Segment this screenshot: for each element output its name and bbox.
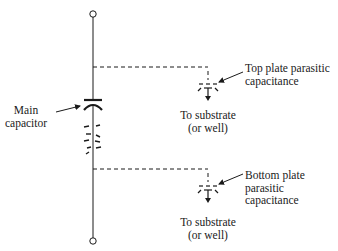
top-parasitic-connection xyxy=(93,67,208,80)
bottom-parasitic-pointer xyxy=(219,174,243,184)
bottom-parasitic-label: Bottom plate parasitic capacitance xyxy=(245,169,305,207)
top-parasitic-capacitor-icon xyxy=(198,84,218,97)
top-substrate-label-line1: To substrate xyxy=(173,109,243,122)
top-substrate-arrow-icon xyxy=(205,96,211,101)
bottom-substrate-label: To substrate (or well) xyxy=(173,216,243,241)
bottom-substrate-label-line1: To substrate xyxy=(173,216,243,229)
bottom-substrate-label-line2: (or well) xyxy=(173,229,243,242)
top-substrate-label-line2: (or well) xyxy=(173,122,243,135)
bottom-substrate-arrow-icon xyxy=(205,198,211,203)
top-parasitic-label: Top plate parasitic capacitance xyxy=(245,62,330,87)
bottom-parasitic-label-line3: capacitance xyxy=(245,194,305,207)
top-substrate-label: To substrate (or well) xyxy=(173,109,243,134)
main-capacitor-label: Main capacitor xyxy=(0,104,52,129)
bottom-parasitic-connection xyxy=(93,169,208,182)
top-parasitic-pointer xyxy=(219,72,243,82)
main-capacitor-pointer xyxy=(56,106,80,112)
top-terminal-icon xyxy=(90,11,96,17)
main-capacitor-label-line2: capacitor xyxy=(0,117,52,130)
bottom-terminal-icon xyxy=(90,238,96,244)
parasitic-capacitance-diagram: Main capacitor Top plate parasitic capac… xyxy=(0,0,338,251)
bottom-parasitic-label-line2: parasitic xyxy=(245,182,305,195)
main-capacitor-label-line1: Main xyxy=(0,104,52,117)
bottom-parasitic-capacitor-icon xyxy=(198,186,218,199)
top-parasitic-label-line2: capacitance xyxy=(245,75,330,88)
top-parasitic-label-line1: Top plate parasitic xyxy=(245,62,330,75)
bottom-parasitic-label-line1: Bottom plate xyxy=(245,169,305,182)
